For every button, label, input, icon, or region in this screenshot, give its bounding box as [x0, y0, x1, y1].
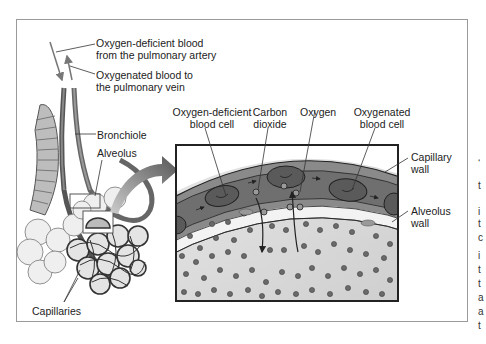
label-alveolus-wall: Alveolus wall: [411, 205, 451, 229]
label-artery: Oxygen-deficient blood from the pulmonar…: [96, 37, 216, 61]
label-bronchiole: Bronchiole: [97, 129, 147, 141]
label-capillary-wall: Capillary wall: [411, 151, 452, 175]
label-vein: Oxygenated blood to the pulmonary vein: [96, 69, 193, 93]
label-carbon-dioxide: Carbon dioxide: [248, 106, 292, 130]
label-oxygen-deficient-cell: Oxygen-deficient blood cell: [164, 106, 260, 130]
label-oxygen: Oxygen: [300, 106, 336, 118]
label-oxygenated-cell: Oxygenated blood cell: [348, 106, 416, 130]
blood-flow-arrows: [50, 42, 95, 80]
label-alveolus: Alveolus: [97, 147, 137, 159]
bronchiole: [30, 105, 58, 215]
detail-box: [160, 145, 420, 301]
label-capillaries: Capillaries: [32, 305, 81, 317]
magnify-arrow-icon: [110, 156, 178, 214]
